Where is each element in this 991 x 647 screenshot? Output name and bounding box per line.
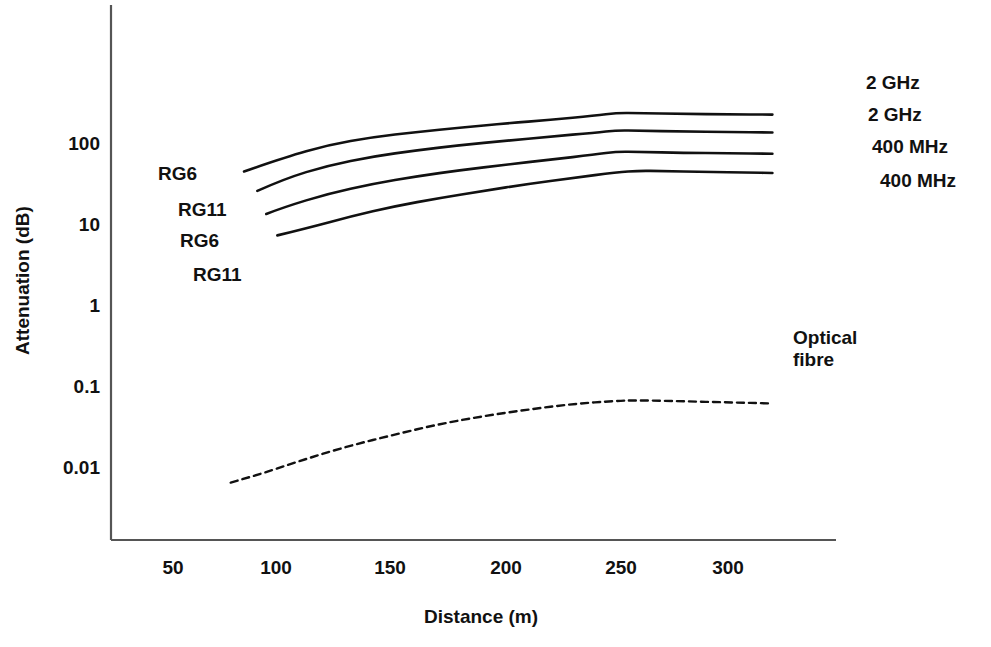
series-curves: [231, 113, 773, 483]
series-label-optical-fibre: Optical fibre: [793, 327, 857, 372]
series-label-freq-400mhz-lower: 400 MHz: [880, 170, 956, 192]
series-label-freq-2ghz-upper: 2 GHz: [866, 72, 920, 94]
y-tick-label-1: 1: [44, 296, 100, 315]
optical-fibre-label-line1: Optical: [793, 327, 857, 349]
y-tick-label-100: 100: [44, 134, 100, 153]
series-label-freq-2ghz-lower: 2 GHz: [868, 104, 922, 126]
x-tick-label-300: 300: [700, 558, 756, 577]
optical-fibre-label-line2: fibre: [793, 349, 857, 371]
series-curve-rg11-2-ghz: [257, 131, 772, 191]
x-tick-label-150: 150: [362, 558, 418, 577]
y-tick-label-10: 10: [44, 215, 100, 234]
x-tick-label-50: 50: [148, 558, 198, 577]
series-label-rg11-2ghz: RG11: [178, 199, 227, 221]
x-tick-label-100: 100: [248, 558, 304, 577]
y-tick-label-0.1: 0.1: [36, 377, 100, 396]
series-curve-rg6-400-mhz: [266, 152, 772, 214]
x-tick-label-250: 250: [593, 558, 649, 577]
series-label-rg6-2ghz: RG6: [158, 163, 197, 185]
y-tick-label-0.01: 0.01: [28, 458, 100, 477]
series-curve-optical-fibre: [231, 400, 773, 482]
series-curve-rg6-2-ghz: [244, 113, 772, 171]
series-label-rg6-400mhz: RG6: [180, 230, 219, 252]
series-curve-rg11-400-mhz: [277, 171, 772, 235]
series-label-freq-400mhz-upper: 400 MHz: [872, 136, 948, 158]
series-label-rg11-400mhz: RG11: [193, 264, 242, 286]
x-axis-title: Distance (m): [424, 607, 538, 626]
y-axis-title: Attenuation (dB): [13, 206, 32, 355]
attenuation-vs-distance-chart: 100 10 1 0.1 0.01 Attenuation (dB) 50 10…: [0, 0, 991, 647]
chart-plot-area: [0, 0, 991, 647]
x-tick-label-200: 200: [478, 558, 534, 577]
